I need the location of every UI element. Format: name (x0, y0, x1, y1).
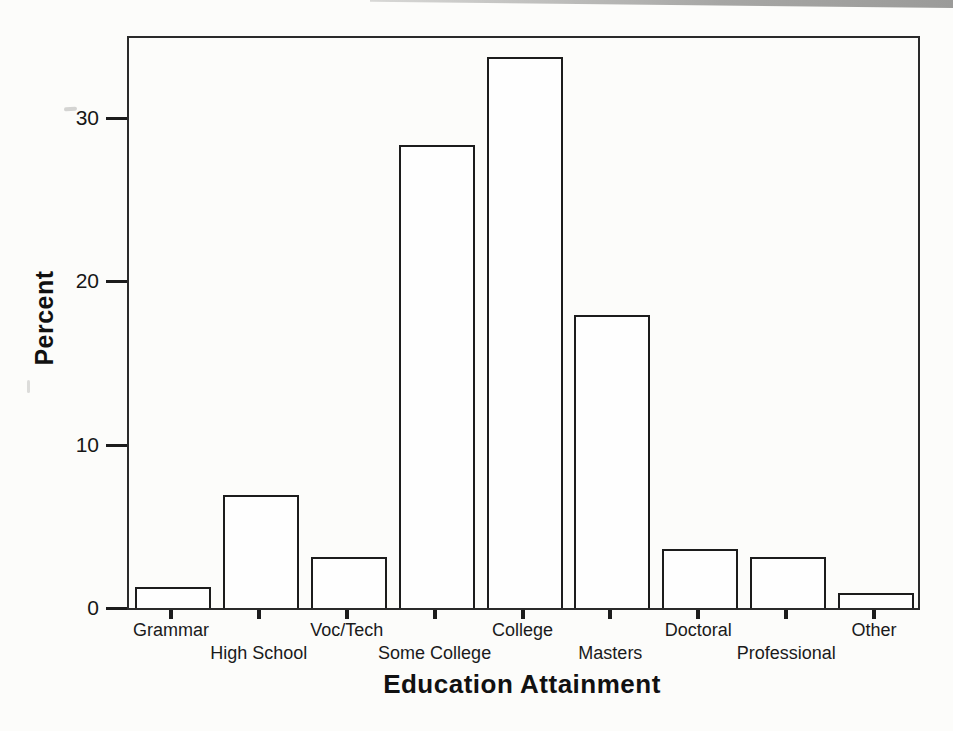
y-tick-mark (106, 444, 127, 447)
x-tick-mark (433, 610, 437, 619)
x-tick-label: Other (774, 620, 953, 641)
x-tick-mark (169, 610, 173, 619)
y-tick-mark (106, 280, 127, 283)
x-tick-label: Voc/Tech (247, 620, 447, 641)
x-tick-mark (257, 610, 261, 619)
bar-chart: Percent 0102030GrammarHigh SchoolVoc/Tec… (0, 0, 953, 731)
x-tick-mark (784, 610, 788, 619)
x-tick-mark (608, 610, 612, 619)
x-tick-mark (696, 610, 700, 619)
x-tick-label: College (423, 620, 623, 641)
bar-college (487, 57, 563, 608)
x-tick-label: Professional (686, 643, 886, 664)
x-tick-label: Grammar (71, 620, 271, 641)
scanned-page: Percent 0102030GrammarHigh SchoolVoc/Tec… (0, 0, 953, 731)
y-tick-label: 0 (37, 596, 99, 620)
bar-high-school (223, 495, 299, 608)
x-axis-title: Education Attainment (327, 669, 717, 700)
bar-professional (750, 557, 826, 608)
plot-area (127, 36, 920, 610)
y-tick-mark (106, 117, 127, 120)
x-tick-label: Doctoral (598, 620, 798, 641)
bar-other (838, 593, 914, 608)
bar-grammar (135, 587, 211, 608)
y-tick-mark (106, 607, 127, 610)
bar-doctoral (662, 549, 738, 608)
x-tick-mark (521, 610, 525, 619)
bar-some-college (399, 145, 475, 608)
x-tick-label: Some College (335, 643, 535, 664)
bar-masters (574, 315, 650, 608)
bar-voc-tech (311, 557, 387, 608)
x-tick-mark (872, 610, 876, 619)
y-tick-label: 10 (37, 433, 99, 457)
x-tick-mark (345, 610, 349, 619)
x-tick-label: High School (159, 643, 359, 664)
y-tick-label: 30 (37, 106, 99, 130)
y-tick-label: 20 (37, 269, 99, 293)
x-tick-label: Masters (510, 643, 710, 664)
